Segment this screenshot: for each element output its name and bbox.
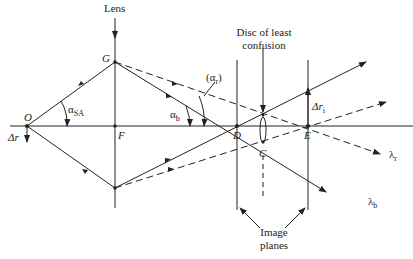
point-O xyxy=(25,124,29,128)
alpha-sa-arc xyxy=(61,101,67,126)
alpha-sa-sub: SA xyxy=(74,109,84,118)
diagram-lines xyxy=(0,0,413,259)
label-G: G xyxy=(102,53,110,64)
alpha-b-sub: b xyxy=(176,114,180,123)
alpha-r-arc xyxy=(199,96,204,126)
label-F: F xyxy=(118,130,125,141)
alpha-r-close: ) xyxy=(218,71,222,83)
ray-red-top xyxy=(115,62,380,154)
disc-label: Disc of least confusion xyxy=(232,27,296,51)
image-planes-label: Image planes xyxy=(253,227,295,251)
ray-arrowhead xyxy=(82,169,88,174)
lambda-b-sub: b xyxy=(373,201,377,210)
chromatic-aberration-diagram: Lens Disc of least confusion Image plane… xyxy=(0,0,413,259)
alpha-b-arc xyxy=(186,106,190,126)
label-C: C xyxy=(259,148,266,159)
point-C-top xyxy=(262,114,265,117)
ray-arrowhead xyxy=(172,81,178,86)
disc-of-least-confusion xyxy=(260,117,266,143)
ray-blue-bottom xyxy=(115,62,366,188)
label-O: O xyxy=(24,112,32,123)
point-lens-bottom xyxy=(113,186,117,190)
point-E xyxy=(306,124,310,128)
image-planes-label-line2: planes xyxy=(253,240,295,251)
label-alpha-sa: αSA xyxy=(68,104,84,118)
point-G xyxy=(113,60,117,64)
disc-label-line2: confusion xyxy=(232,40,296,51)
label-D: D xyxy=(233,130,241,141)
delta-ri-sub: i xyxy=(323,106,325,115)
label-alpha-r: (αr) xyxy=(206,72,222,86)
label-delta-r: Δr xyxy=(8,132,19,143)
label-lambda-r: λr xyxy=(389,149,397,163)
ray-arrowhead xyxy=(166,93,172,98)
image-planes-label-line1: Image xyxy=(253,227,295,238)
disc-label-line1: Disc of least xyxy=(232,27,296,38)
label-alpha-b: αb xyxy=(170,109,180,123)
point-C xyxy=(262,141,265,144)
point-D xyxy=(235,124,239,128)
label-lambda-b: λb xyxy=(368,196,377,210)
image-planes-pointer-right xyxy=(285,208,305,228)
delta-ri-main: Δr xyxy=(312,100,323,112)
label-E: E xyxy=(304,130,311,141)
image-planes-pointer-left xyxy=(240,208,260,228)
lambda-r-sub: r xyxy=(394,154,397,163)
lens-label: Lens xyxy=(104,3,125,14)
label-delta-ri: Δri xyxy=(312,101,325,115)
ray-O-bottom xyxy=(27,126,115,188)
point-F xyxy=(113,124,117,128)
